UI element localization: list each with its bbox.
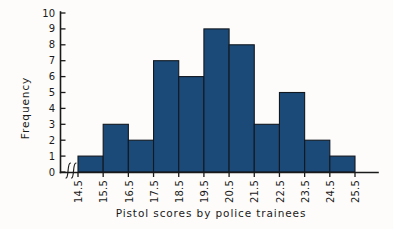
histogram-bar	[128, 140, 153, 172]
histogram-bar	[279, 93, 304, 173]
histogram-bar	[179, 77, 204, 172]
x-axis-tick-label: 23.5	[300, 180, 311, 203]
histogram-bar	[254, 124, 279, 172]
histogram-bar	[204, 29, 229, 172]
y-axis-tick-label: 3	[49, 119, 55, 130]
histogram-bar	[78, 156, 103, 172]
y-axis-title: Frequency	[19, 77, 31, 139]
chart-canvas: 14.515.516.517.518.519.520.521.522.523.5…	[0, 0, 393, 229]
y-axis-tick-label: 7	[49, 55, 55, 66]
histogram-bar	[330, 156, 355, 172]
y-axis-tick-label: 10	[42, 8, 55, 19]
x-axis-tick-label: 18.5	[174, 180, 185, 203]
histogram-bar	[154, 61, 179, 172]
x-axis-tick-label: 25.5	[350, 180, 361, 203]
x-axis-tick-label: 22.5	[275, 180, 286, 203]
y-axis-tick-label: 9	[49, 23, 55, 34]
histogram-bar	[229, 45, 254, 172]
y-axis-tick-label: 4	[49, 103, 55, 114]
x-axis-title: Pistol scores by police trainees	[116, 207, 307, 219]
y-axis-tick-label: 6	[49, 71, 55, 82]
y-axis-tick-label: 1	[49, 151, 55, 162]
histogram-bar	[305, 140, 330, 172]
histogram-bar	[103, 124, 128, 172]
histogram-chart: 14.515.516.517.518.519.520.521.522.523.5…	[0, 0, 393, 229]
y-axis-tick-label: 5	[49, 87, 55, 98]
x-axis-tick-label: 19.5	[199, 180, 210, 203]
y-axis-tick-label: 8	[49, 39, 55, 50]
x-axis-tick-label: 15.5	[98, 180, 109, 203]
x-axis-tick-label: 14.5	[73, 180, 84, 203]
y-axis-tick-label: 2	[49, 135, 55, 146]
x-axis-tick-label: 21.5	[249, 180, 260, 203]
x-axis-tick-label: 24.5	[325, 180, 336, 203]
y-axis-tick-label: 0	[49, 167, 55, 178]
x-axis-tick-label: 16.5	[124, 180, 135, 203]
x-axis-tick-label: 20.5	[224, 180, 235, 203]
x-axis-tick-label: 17.5	[149, 180, 160, 203]
